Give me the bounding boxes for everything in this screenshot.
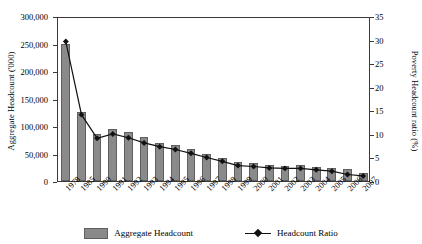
y-axis-right-title: Poverty Headcount ratio (%) <box>410 26 420 176</box>
legend-item-headcount-ratio: Headcount Ratio <box>245 228 338 238</box>
marker-1995 <box>172 147 178 153</box>
y-tick-right-3: 15 <box>375 106 405 116</box>
marker-2001 <box>266 165 272 171</box>
legend-label-headcount-ratio: Headcount Ratio <box>277 228 338 238</box>
marker-2003 <box>298 165 304 171</box>
y-tick-right-1: 5 <box>375 153 405 163</box>
y-tick-left-4: 200,000 <box>0 67 48 77</box>
y-tick-right-0: 0 <box>375 177 405 187</box>
plot-area <box>57 17 370 182</box>
y-tick-right-5: 25 <box>375 59 405 69</box>
marker-2004 <box>313 167 319 173</box>
marker-1991 <box>110 131 116 137</box>
y-tick-left-1: 50,000 <box>0 150 48 160</box>
marker-1978 <box>63 39 69 45</box>
marker-2002 <box>282 165 288 171</box>
marker-1999 <box>235 163 241 169</box>
marker-2005 <box>329 168 335 174</box>
y-tickmark-left-0 <box>53 182 57 183</box>
y-tick-left-0: 0 <box>0 177 48 187</box>
line-series-headcount-ratio <box>58 18 371 183</box>
y-tick-right-7: 35 <box>375 12 405 22</box>
marker-1998 <box>219 158 225 164</box>
marker-1997 <box>204 155 210 161</box>
poverty-headcount-chart: Aggregate Headcount ('000) Poverty Headc… <box>0 0 422 244</box>
y-tick-left-6: 300,000 <box>0 12 48 22</box>
y-tick-right-2: 10 <box>375 130 405 140</box>
marker-1992 <box>125 135 131 141</box>
marker-1994 <box>157 144 163 150</box>
y-tick-left-2: 100,000 <box>0 122 48 132</box>
y-tick-right-4: 20 <box>375 83 405 93</box>
marker-2006 <box>345 172 351 178</box>
marker-1996 <box>188 150 194 156</box>
marker-2000 <box>251 164 257 170</box>
legend-bar-swatch-icon <box>84 228 108 239</box>
y-tick-left-3: 150,000 <box>0 95 48 105</box>
headcount-ratio-polyline <box>66 42 363 176</box>
legend-line-marker-icon <box>245 229 271 238</box>
marker-1993 <box>141 140 147 146</box>
y-tick-right-6: 30 <box>375 36 405 46</box>
y-tick-left-5: 250,000 <box>0 40 48 50</box>
chart-legend: Aggregate Headcount Headcount Ratio <box>0 222 422 244</box>
headcount-ratio-markers <box>63 39 366 179</box>
legend-label-aggregate-headcount: Aggregate Headcount <box>114 228 193 238</box>
legend-item-aggregate-headcount: Aggregate Headcount <box>84 228 193 239</box>
